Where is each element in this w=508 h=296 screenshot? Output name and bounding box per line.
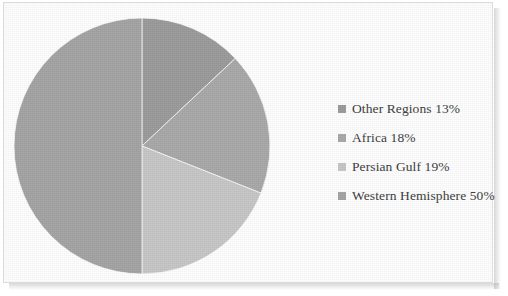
chart-legend: Other Regions 13% Africa 18% Persian Gul… bbox=[338, 94, 498, 210]
legend-swatch-western-hemisphere bbox=[338, 192, 346, 200]
legend-item-africa[interactable]: Africa 18% bbox=[338, 123, 498, 152]
legend-label-africa: Africa 18% bbox=[352, 131, 416, 145]
legend-swatch-africa bbox=[338, 134, 346, 142]
legend-swatch-other-regions bbox=[338, 105, 346, 113]
chart-frame: Other Regions 13% Africa 18% Persian Gul… bbox=[3, 2, 493, 283]
pie-slices bbox=[14, 18, 270, 274]
legend-label-other-regions: Other Regions 13% bbox=[352, 102, 460, 116]
frame-shadow-right bbox=[494, 8, 501, 289]
frame-shadow-bottom bbox=[9, 283, 499, 290]
legend-item-other-regions[interactable]: Other Regions 13% bbox=[338, 94, 498, 123]
pie-slice-western-hemisphere[interactable] bbox=[14, 18, 142, 274]
pie-chart-screenshot: Other Regions 13% Africa 18% Persian Gul… bbox=[0, 0, 508, 296]
legend-label-persian-gulf: Persian Gulf 19% bbox=[352, 160, 450, 174]
legend-label-western-hemisphere: Western Hemisphere 50% bbox=[352, 189, 495, 203]
pie-chart-svg bbox=[14, 17, 270, 275]
pie-chart-area bbox=[14, 17, 270, 275]
legend-item-persian-gulf[interactable]: Persian Gulf 19% bbox=[338, 152, 498, 181]
legend-swatch-persian-gulf bbox=[338, 163, 346, 171]
legend-item-western-hemisphere[interactable]: Western Hemisphere 50% bbox=[338, 181, 498, 210]
